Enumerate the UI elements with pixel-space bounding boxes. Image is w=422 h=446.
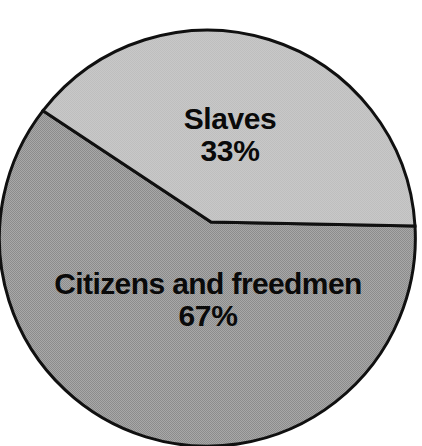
- pie-chart: Slaves 33% Citizens and freedmen 67%: [0, 0, 422, 446]
- pie-slice-label-citizens-and-freedmen-name: Citizens and freedmen: [0, 268, 419, 300]
- pie-slice-label-citizens-and-freedmen-value: 67%: [0, 300, 419, 332]
- pie-slice-label-slaves-name: Slaves: [19, 103, 422, 135]
- pie-chart-svg: [0, 0, 422, 446]
- pie-slice-label-slaves-value: 33%: [19, 135, 422, 167]
- pie-slice-label-slaves: Slaves 33%: [19, 103, 422, 167]
- pie-slice-label-citizens-and-freedmen: Citizens and freedmen 67%: [0, 268, 419, 332]
